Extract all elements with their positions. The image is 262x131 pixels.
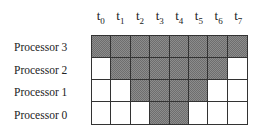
- time-label-t5: t5: [189, 6, 209, 27]
- cell-processor-0-t6-idle: [208, 102, 227, 124]
- cell-processor-1-t7-idle: [228, 80, 247, 102]
- cell-processor-1-t1-idle: [111, 80, 130, 102]
- cell-processor-3-t4-busy: [170, 36, 189, 58]
- cell-processor-3-t3-busy: [150, 36, 169, 58]
- time-label-t0: t0: [91, 6, 111, 27]
- cell-processor-3-t5-busy: [189, 36, 208, 58]
- cell-processor-3-t1-busy: [111, 36, 130, 58]
- cell-processor-0-t2-idle: [131, 102, 150, 124]
- cell-processor-2-t6-busy: [208, 58, 227, 80]
- cell-processor-0-t7-idle: [228, 102, 247, 124]
- time-axis-labels: t0 t1 t2 t3 t4 t5 t6 t7: [91, 6, 248, 30]
- cell-processor-0-t3-busy: [150, 102, 169, 124]
- cell-processor-3-t2-busy: [131, 36, 150, 58]
- cell-processor-2-t0-idle: [92, 58, 111, 80]
- cell-processor-2-t2-busy: [131, 58, 150, 80]
- cell-processor-2-t5-busy: [189, 58, 208, 80]
- cell-processor-0-t0-idle: [92, 102, 111, 124]
- cell-processor-1-t2-busy: [131, 80, 150, 102]
- cell-processor-1-t4-busy: [170, 80, 189, 102]
- cell-processor-1-t3-busy: [150, 80, 169, 102]
- cell-processor-0-t1-idle: [111, 102, 130, 124]
- cell-processor-2-t7-idle: [228, 58, 247, 80]
- time-label-t4: t4: [170, 6, 190, 27]
- time-label-t1: t1: [111, 6, 131, 27]
- row-label-processor-1: Processor 1: [14, 85, 67, 99]
- cell-processor-3-t7-busy: [228, 36, 247, 58]
- cell-processor-0-t5-idle: [189, 102, 208, 124]
- time-label-t3: t3: [150, 6, 170, 27]
- cell-processor-1-t0-idle: [92, 80, 111, 102]
- row-label-processor-2: Processor 2: [14, 63, 67, 77]
- time-label-t7: t7: [228, 6, 248, 27]
- time-label-t2: t2: [130, 6, 150, 27]
- cell-processor-2-t4-busy: [170, 58, 189, 80]
- processor-time-grid: [91, 35, 248, 125]
- row-label-processor-3: Processor 3: [14, 40, 67, 54]
- cell-processor-1-t5-busy: [189, 80, 208, 102]
- cell-processor-3-t6-busy: [208, 36, 227, 58]
- cell-processor-2-t3-busy: [150, 58, 169, 80]
- cell-processor-0-t4-busy: [170, 102, 189, 124]
- cell-processor-3-t0-busy: [92, 36, 111, 58]
- cell-processor-1-t6-idle: [208, 80, 227, 102]
- time-label-t6: t6: [209, 6, 229, 27]
- cell-processor-2-t1-busy: [111, 58, 130, 80]
- row-label-processor-0: Processor 0: [14, 108, 67, 122]
